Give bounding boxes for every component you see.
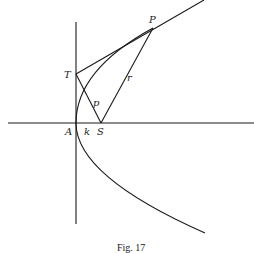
label-A: A	[64, 126, 72, 137]
label-P: P	[148, 14, 156, 25]
label-S: S	[97, 126, 104, 137]
label-T: T	[64, 69, 72, 80]
label-p: p	[93, 97, 100, 108]
label-k: k	[84, 126, 90, 137]
label-r: r	[127, 72, 133, 83]
parabola-diagram: P T p r A k S Fig. 17	[0, 0, 254, 253]
tangent-line-TP	[76, 0, 204, 74]
figure-caption: Fig. 17	[117, 242, 145, 253]
parabola-curve	[76, 28, 205, 233]
